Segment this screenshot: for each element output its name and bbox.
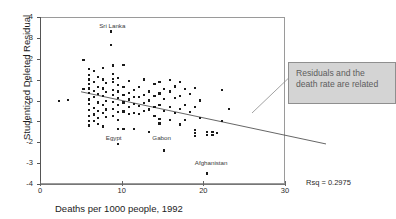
data-point xyxy=(179,123,181,125)
data-point xyxy=(128,113,130,115)
data-point xyxy=(117,111,119,113)
data-point xyxy=(110,44,112,46)
top-cutoff-text xyxy=(8,0,308,7)
data-point xyxy=(93,113,95,115)
point-annotation: Sri Lanka xyxy=(99,23,125,30)
y-tick xyxy=(37,17,41,18)
data-point xyxy=(216,132,218,134)
data-point xyxy=(148,90,150,92)
data-point xyxy=(93,96,95,98)
data-point xyxy=(143,94,145,96)
data-point xyxy=(206,131,208,133)
data-point xyxy=(102,67,104,69)
data-point xyxy=(169,119,171,121)
data-point xyxy=(138,113,140,115)
point-annotation: Egypt xyxy=(106,135,122,142)
data-point xyxy=(88,124,90,126)
data-point xyxy=(133,96,135,98)
data-point xyxy=(211,134,213,136)
data-point xyxy=(158,92,160,94)
data-point xyxy=(112,115,114,117)
data-point xyxy=(88,78,90,80)
x-tick-label: 0 xyxy=(27,187,53,195)
data-point xyxy=(97,101,99,103)
data-point xyxy=(158,122,160,124)
data-point xyxy=(97,123,99,125)
data-point xyxy=(143,78,145,80)
data-point xyxy=(88,68,90,70)
data-point xyxy=(88,98,90,100)
data-point xyxy=(112,78,114,80)
callout-box: Residuals and the death rate are related xyxy=(288,62,396,104)
data-point xyxy=(105,100,107,102)
data-point xyxy=(148,108,150,110)
data-point xyxy=(117,84,119,86)
data-point xyxy=(117,90,119,92)
data-point xyxy=(112,101,114,103)
data-point xyxy=(206,172,208,174)
data-point xyxy=(211,131,213,133)
data-point xyxy=(158,104,160,106)
data-point xyxy=(206,134,208,136)
data-point xyxy=(102,87,104,89)
data-point xyxy=(122,64,124,66)
point-annotation: Gabon xyxy=(152,135,171,142)
data-point xyxy=(194,129,196,131)
x-tick-label: 30 xyxy=(272,187,298,195)
data-point xyxy=(138,96,140,98)
y-tick xyxy=(37,121,41,122)
data-point xyxy=(184,104,186,106)
x-tick-label: 10 xyxy=(109,187,135,195)
data-point xyxy=(128,106,130,108)
data-point xyxy=(153,115,155,117)
data-point xyxy=(122,101,124,103)
data-point xyxy=(88,83,90,85)
data-point xyxy=(194,135,196,137)
data-point xyxy=(169,106,171,108)
data-point xyxy=(117,119,119,121)
data-point xyxy=(112,81,114,83)
data-point xyxy=(153,95,155,97)
data-point xyxy=(221,120,223,122)
data-point xyxy=(179,95,181,97)
data-point xyxy=(133,128,135,130)
y-tick xyxy=(37,163,41,164)
data-point xyxy=(97,86,99,88)
data-point xyxy=(102,78,104,80)
data-point xyxy=(122,128,124,130)
data-point xyxy=(82,59,84,61)
data-point xyxy=(179,108,181,110)
data-point xyxy=(105,91,107,93)
y-tick xyxy=(37,80,41,81)
data-point xyxy=(93,90,95,92)
data-point xyxy=(184,88,186,90)
data-point xyxy=(112,73,114,75)
data-point xyxy=(133,89,135,91)
data-point xyxy=(133,112,135,114)
data-point xyxy=(163,110,165,112)
data-point xyxy=(112,89,114,91)
data-point xyxy=(93,70,95,72)
data-point xyxy=(117,97,119,99)
data-point xyxy=(88,115,90,117)
data-point xyxy=(128,98,130,100)
data-point xyxy=(117,128,119,130)
y-tick xyxy=(37,59,41,60)
data-point xyxy=(105,108,107,110)
data-point xyxy=(112,108,114,110)
data-point xyxy=(128,92,130,94)
y-axis-title: Studentized Deleted Residual xyxy=(21,0,32,158)
data-point xyxy=(133,103,135,105)
data-point xyxy=(128,80,130,82)
data-point xyxy=(97,117,99,119)
data-point xyxy=(194,87,196,89)
data-point xyxy=(199,117,201,119)
data-point xyxy=(110,30,112,32)
point-annotation: Afghanistan xyxy=(195,160,228,167)
data-point xyxy=(228,108,230,110)
data-point xyxy=(163,98,165,100)
data-point xyxy=(88,87,90,89)
data-point xyxy=(138,105,140,107)
data-point xyxy=(163,149,165,151)
